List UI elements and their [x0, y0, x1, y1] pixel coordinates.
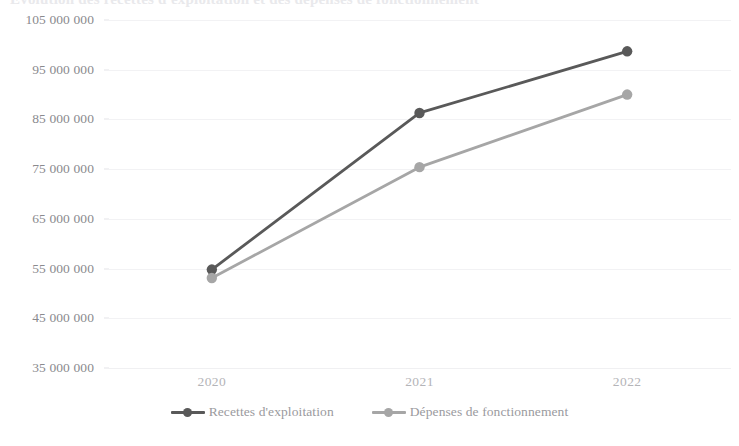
line-chart-figure: Evolution des recettes d'exploitation et… — [0, 0, 739, 446]
legend-dot — [384, 408, 393, 417]
legend-dot — [183, 408, 192, 417]
series-line — [212, 95, 627, 278]
legend-label: Recettes d'exploitation — [209, 404, 334, 420]
legend-marker-icon — [372, 406, 406, 418]
legend-marker-icon — [171, 406, 205, 418]
data-point-marker — [622, 46, 632, 56]
series-line — [212, 51, 627, 269]
data-point-marker — [622, 89, 632, 99]
legend-entry[interactable]: Dépenses de fonctionnement — [372, 404, 569, 420]
data-point-marker — [207, 273, 217, 283]
chart-series-layer — [0, 0, 739, 446]
legend-label: Dépenses de fonctionnement — [410, 404, 569, 420]
data-point-marker — [414, 108, 424, 118]
data-point-marker — [414, 162, 424, 172]
legend-entry[interactable]: Recettes d'exploitation — [171, 404, 334, 420]
chart-legend: Recettes d'exploitationDépenses de fonct… — [0, 404, 739, 438]
